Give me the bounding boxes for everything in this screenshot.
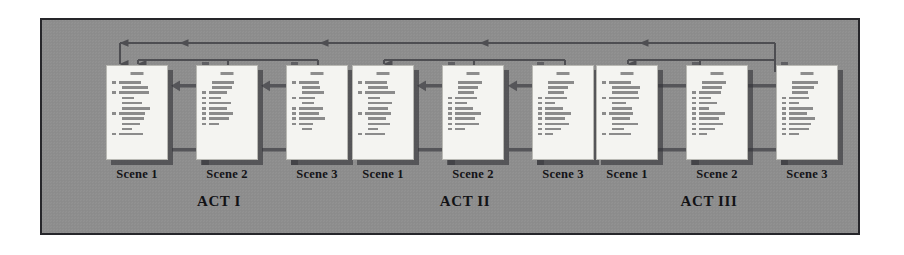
line-text (455, 102, 467, 105)
line-text (119, 112, 145, 115)
line-marker (358, 112, 362, 115)
scene-page-act3-scene1[interactable] (596, 65, 658, 160)
page-text-line (692, 117, 742, 120)
scene-label-act3-scene1: Scene 1 (590, 167, 664, 182)
scene-page-act2-scene3[interactable] (532, 65, 594, 160)
page-text-line (782, 86, 832, 89)
line-text (789, 133, 799, 136)
line-text (545, 102, 555, 105)
line-text (455, 123, 479, 126)
line-marker (692, 123, 696, 126)
page-title-bar (311, 72, 324, 75)
line-marker (292, 112, 296, 115)
scene-label-act1-scene1: Scene 1 (100, 167, 174, 182)
page-text-line (292, 81, 342, 84)
act-title-2: ACT II (352, 193, 578, 210)
line-text (545, 97, 567, 100)
line-marker (202, 123, 206, 126)
page-text-lines (202, 81, 252, 125)
page-text-line (112, 97, 162, 100)
line-text (302, 128, 312, 131)
scene-page-act3-scene2[interactable] (686, 65, 748, 160)
page-text-line (538, 81, 588, 84)
line-text (789, 102, 799, 105)
page-text-line (112, 107, 162, 110)
line-text (299, 97, 315, 100)
page-text-line (602, 91, 652, 94)
act-title-3: ACT III (596, 193, 822, 210)
line-text (792, 81, 818, 84)
scene-page-act1-scene1[interactable] (106, 65, 168, 160)
page-text-line (358, 97, 408, 100)
line-text (609, 81, 631, 84)
page-text-line (448, 102, 498, 105)
line-marker (538, 123, 542, 126)
page-text-line (292, 91, 342, 94)
line-text (368, 128, 378, 131)
scene-page-act2-scene1[interactable] (352, 65, 414, 160)
scene-page-act1-scene2[interactable] (196, 65, 258, 160)
line-text (612, 123, 638, 126)
diagram-canvas: Scene 1 Scene 2 Scene 3 ACT I Scene 1 Sc… (0, 0, 904, 255)
page-text-line (692, 97, 742, 100)
line-text (455, 97, 477, 100)
page-text-line (692, 128, 742, 131)
line-text (545, 133, 553, 136)
line-text (699, 97, 711, 100)
line-marker (448, 117, 452, 120)
page-text-line (358, 128, 408, 131)
act-group-2: Scene 1 Scene 2 Scene 3 ACT II (352, 65, 578, 165)
line-text (545, 123, 569, 126)
line-text (789, 112, 807, 115)
page-text-line (782, 97, 832, 100)
line-text (545, 128, 561, 131)
line-marker (292, 117, 296, 120)
page-text-line (448, 91, 498, 94)
line-marker (538, 102, 542, 105)
line-text (209, 97, 221, 100)
page-text-line (112, 117, 162, 120)
scene-label-act2-scene1: Scene 1 (346, 167, 420, 182)
line-marker (202, 112, 206, 115)
page-title-bar (557, 72, 570, 75)
line-marker (602, 81, 606, 84)
page-text-line (602, 123, 652, 126)
line-text (209, 123, 219, 126)
line-text (455, 107, 473, 110)
page-text-line (692, 107, 742, 110)
line-text (368, 107, 388, 110)
page-text-line (782, 107, 832, 110)
line-text (119, 133, 143, 136)
scene-page-act3-scene3[interactable] (776, 65, 838, 160)
page-text-line (292, 97, 342, 100)
line-text (365, 133, 385, 136)
line-marker (112, 81, 116, 84)
page-text-line (538, 91, 588, 94)
line-text (302, 102, 314, 105)
line-text (122, 97, 134, 100)
line-text (699, 128, 715, 131)
line-text (548, 86, 568, 89)
scene-page-act1-scene3[interactable] (286, 65, 348, 160)
page-text-lines (448, 81, 498, 130)
line-text (122, 86, 148, 89)
page-title-bar (377, 72, 390, 75)
line-text (699, 117, 719, 120)
line-text (212, 81, 234, 84)
page-text-line (112, 102, 162, 105)
line-text (368, 117, 386, 120)
scene-page-act2-scene2[interactable] (442, 65, 504, 160)
line-text (792, 86, 814, 89)
page-text-line (782, 123, 832, 126)
line-marker (538, 107, 542, 110)
line-marker (202, 97, 206, 100)
line-text (612, 86, 640, 89)
line-text (612, 91, 638, 94)
line-text (368, 123, 390, 126)
line-text (458, 86, 478, 89)
line-text (119, 91, 149, 94)
line-text (789, 128, 809, 131)
line-text (545, 117, 565, 120)
page-text-line (448, 117, 498, 120)
page-text-line (292, 102, 342, 105)
